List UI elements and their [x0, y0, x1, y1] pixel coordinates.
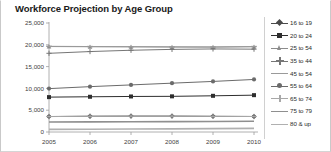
legend-item-25-to-54[interactable]: 25 to 54 [271, 42, 331, 55]
series-line [49, 128, 254, 129]
legend-marker-icon [271, 18, 288, 28]
legend-item-label: 55 to 64 [290, 83, 312, 89]
series-line [49, 121, 254, 122]
plot-area: 05,00010,00015,00020,00025,000 200520062… [1, 15, 263, 152]
y-axis-tick-label: 15,000 [25, 63, 44, 70]
series-line [49, 95, 254, 97]
legend-item-label: 16 to 19 [290, 20, 312, 26]
data-point-marker [211, 79, 215, 83]
y-axis-tick-label: 0 [41, 128, 45, 135]
chart-card: Workforce Projection by Age Group 05,000… [0, 0, 331, 152]
series-line [49, 46, 254, 47]
data-point-marker [211, 94, 215, 98]
legend-item-80-up[interactable]: 80 & up [271, 118, 331, 131]
data-point-marker [46, 46, 52, 47]
legend-marker-icon [271, 56, 288, 66]
x-axis-tick-label: 2008 [165, 138, 179, 145]
data-point-marker [210, 114, 215, 119]
y-axis-tick-label: 25,000 [25, 19, 44, 26]
legend-marker-icon [271, 94, 288, 104]
y-axis-tick-label: 10,000 [25, 85, 44, 92]
x-axis-tick-label: 2005 [42, 138, 56, 145]
data-point-marker [251, 114, 256, 119]
y-axis-tick-label: 20,000 [25, 41, 44, 48]
x-axis-tick-label: 2009 [206, 138, 220, 145]
data-point-marker [251, 47, 256, 52]
legend-item-35-to-44[interactable]: 35 to 44 [271, 55, 331, 68]
legend-item-label: 65 to 74 [290, 96, 312, 102]
data-point-marker [252, 77, 256, 81]
data-point-marker [128, 46, 134, 47]
data-point-marker [129, 94, 133, 98]
series-line [49, 79, 254, 88]
series-20-to-24 [47, 93, 256, 99]
axis-lines [46, 22, 258, 135]
series-55-to-64 [47, 77, 256, 90]
y-axis-tick-labels: 05,00010,00015,00020,00025,000 [25, 19, 44, 135]
series-layer [46, 44, 257, 129]
x-axis-tick-label: 2010 [247, 138, 261, 145]
legend-item-label: 25 to 54 [290, 45, 312, 51]
legend-item-label: 20 to 24 [290, 33, 312, 39]
legend-item-label: 80 & up [290, 121, 311, 127]
series-line [49, 49, 254, 53]
data-point-marker [46, 114, 51, 119]
x-axis-tick-label: 2007 [124, 138, 138, 145]
data-point-marker [128, 114, 133, 119]
data-point-marker [87, 114, 92, 119]
series-75-to-79 [49, 121, 254, 122]
legend-item-label: 35 to 44 [290, 58, 312, 64]
series-80-up [49, 128, 254, 129]
legend-item-65-to-74[interactable]: 65 to 74 [271, 93, 331, 106]
x-axis-tick-labels: 200520062007200820092010 [42, 138, 261, 145]
data-point-marker [88, 95, 92, 99]
series-35-to-44 [46, 46, 256, 56]
legend-item-label: 75 to 79 [290, 108, 312, 114]
data-point-marker [210, 46, 216, 47]
data-point-marker [129, 83, 133, 87]
legend-marker-icon [271, 81, 288, 91]
data-point-marker [252, 93, 256, 97]
data-point-marker [251, 46, 257, 47]
legend-marker-icon [271, 31, 288, 41]
data-point-marker [47, 95, 51, 99]
data-point-marker [169, 114, 174, 119]
legend-marker-icon [271, 119, 288, 129]
data-point-marker [87, 46, 93, 47]
page-title: Workforce Projection by Age Group [15, 3, 173, 14]
data-point-marker [169, 46, 175, 47]
data-point-marker [170, 81, 174, 85]
legend-item-45-to-54[interactable]: 45 to 54 [271, 67, 331, 80]
legend-item-16-to-19[interactable]: 16 to 19 [271, 17, 331, 30]
data-point-marker [88, 85, 92, 89]
x-axis-tick-label: 2006 [83, 138, 97, 145]
legend-marker-icon [271, 43, 288, 53]
line-chart-svg: 05,00010,00015,00020,00025,000 200520062… [1, 15, 263, 152]
legend-item-75-to-79[interactable]: 75 to 79 [271, 105, 331, 118]
series-65-to-74 [46, 114, 256, 120]
chart-legend: 16 to 1920 to 2425 to 5435 to 4445 to 54… [264, 17, 331, 139]
data-point-marker [47, 87, 51, 91]
legend-item-55-to-64[interactable]: 55 to 64 [271, 80, 331, 93]
y-axis-tick-label: 5,000 [29, 106, 45, 113]
data-point-marker [87, 49, 92, 54]
legend-item-20-to-24[interactable]: 20 to 24 [271, 30, 331, 43]
data-point-marker [46, 51, 51, 56]
legend-marker-icon [271, 69, 288, 79]
legend-marker-icon [271, 106, 288, 116]
legend-item-label: 45 to 54 [290, 71, 312, 77]
data-point-marker [170, 94, 174, 98]
